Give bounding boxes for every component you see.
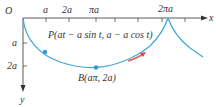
y-tick-label-2a: 2a bbox=[7, 60, 17, 71]
x-tick-label-2pia: 2πa bbox=[158, 3, 173, 14]
y-axis-arrow-icon bbox=[21, 85, 26, 92]
point-P bbox=[43, 50, 47, 54]
cycloid-arc-2 bbox=[168, 18, 203, 57]
x-axis-arrow-icon bbox=[201, 16, 208, 21]
x-tick-label-a: a bbox=[43, 4, 48, 15]
point-B bbox=[94, 65, 98, 69]
point-P-label: P(at − a sin t, a − a cos t) bbox=[47, 29, 153, 41]
y-tick-label-a: a bbox=[12, 37, 17, 48]
y-ticks bbox=[23, 43, 27, 66]
x-tick-label-pia: πa bbox=[89, 4, 99, 15]
cycloid-diagram: O a 2a πa 2πa x y a 2a P(at − a sin t, a… bbox=[0, 0, 216, 107]
y-axis-label: y bbox=[19, 94, 25, 105]
x-tick-label-2a: 2a bbox=[62, 4, 72, 15]
cycloid-arc-1 bbox=[23, 18, 168, 68]
x-ticks bbox=[46, 18, 185, 22]
origin-label: O bbox=[5, 5, 12, 16]
point-B-label: B(aπ, 2a) bbox=[78, 72, 116, 84]
x-axis-label: x bbox=[208, 12, 214, 23]
